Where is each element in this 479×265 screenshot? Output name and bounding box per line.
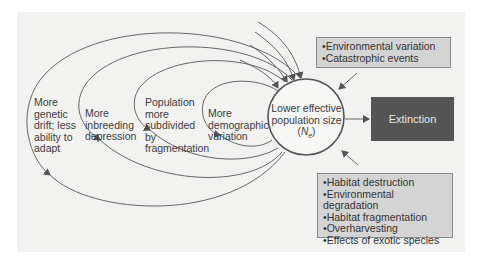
text-line: adapt	[34, 143, 76, 155]
loop-label-demographic: More demographic variation	[208, 108, 269, 143]
center-line-2: population size	[268, 115, 345, 127]
text-line: More	[208, 108, 269, 120]
arrow-from-bottom-factors	[342, 151, 358, 165]
text-line: More	[34, 97, 76, 109]
text-line: drift; less	[34, 120, 76, 132]
loop-label-inbreeding: More inbreeding depression	[85, 108, 136, 143]
text-line: Population	[145, 97, 209, 109]
text-line: variation	[208, 131, 269, 143]
arrow-from-top-factors	[339, 73, 357, 89]
ne-symbol: (Ne)	[268, 126, 345, 142]
factor-item: Catastrophic events	[322, 53, 445, 65]
factor-item: Overharvesting	[323, 223, 447, 235]
factor-item: Habitat destruction	[323, 177, 447, 189]
extinction-box: Extinction	[371, 97, 454, 141]
factor-item: Effects of exotic species	[323, 235, 447, 247]
loop-label-genetic-drift: More genetic drift; less ability to adap…	[34, 97, 76, 155]
loop-label-fragmentation: Population more subdivided by fragmentat…	[145, 97, 209, 155]
text-line: More	[85, 108, 136, 120]
text-line: subdivided	[145, 120, 209, 132]
text-line: depression	[85, 131, 136, 143]
factor-item: Environmental variation	[322, 41, 445, 53]
extinction-label: Extinction	[389, 113, 437, 125]
center-node-label: Lower effective population size (Ne)	[268, 103, 345, 142]
factor-item: Environmental degradation	[323, 189, 447, 212]
top-factors-box: Environmental variation Catastrophic eve…	[316, 37, 451, 68]
bottom-factors-box: Habitat destruction Environmental degrad…	[317, 173, 453, 238]
paren-close: )	[312, 126, 315, 137]
center-line-1: Lower effective	[268, 103, 345, 115]
text-line: fragmentation	[145, 143, 209, 155]
